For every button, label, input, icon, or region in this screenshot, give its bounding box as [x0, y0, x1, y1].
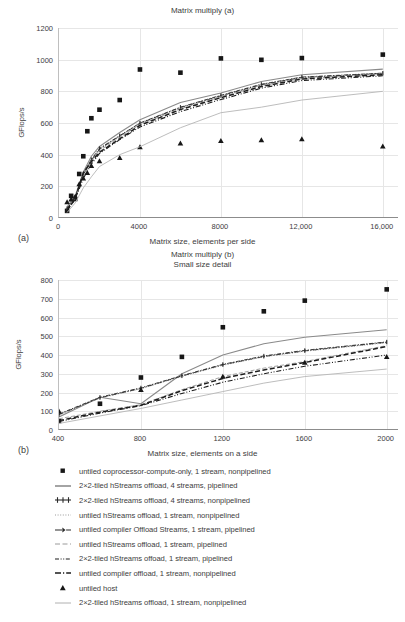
- data-point-square: [138, 67, 143, 72]
- solid-thin-line-icon: [52, 596, 74, 610]
- legend-item-label: 2×2-tiled hStreams offoad, 1 stream, pip…: [79, 554, 232, 563]
- data-point-triangle: [259, 137, 265, 142]
- y-axis-tick-label: 300: [22, 369, 53, 378]
- y-axis-tick-label: 1200: [22, 24, 53, 33]
- data-point-square: [178, 70, 183, 75]
- chart-series-layer: [59, 28, 398, 217]
- data-point-square: [85, 129, 90, 134]
- legend-item[interactable]: untiled compiler offload, 1 stream, nonp…: [52, 566, 402, 581]
- panel-a-tag: (a): [18, 233, 29, 243]
- legend-item-label: 2×2-tiled hStreams offload, 4 streams, p…: [79, 481, 238, 490]
- x-axis-tick-label: 400: [52, 434, 65, 443]
- legend-item[interactable]: untiled compiler Offload Streams, 1 stre…: [52, 522, 402, 537]
- legend-item-label: untiled hStreams offload, 1 stream, pipe…: [79, 540, 227, 549]
- legend-item[interactable]: 2×2-tiled hStreams offload, 1 stream, no…: [52, 595, 402, 610]
- x-axis-tick-label: 8000: [212, 222, 229, 231]
- x-axis-tick-label: 0: [56, 222, 60, 231]
- x-axis-tick-label: 2000: [377, 434, 394, 443]
- series-line: [67, 91, 383, 212]
- chart-a-plot-area: [58, 28, 398, 218]
- data-point-square: [81, 154, 86, 159]
- panel-b-tag: (b): [18, 445, 29, 455]
- legend-item[interactable]: 2×2-tiled hStreams offoad, 1 stream, pip…: [52, 552, 402, 567]
- legend-item[interactable]: untiled hStreams offload, 1 stream, nonp…: [52, 508, 402, 523]
- chart-matrix-multiply-a: Matrix multiply (a) GFlops/s 02004006008…: [0, 0, 405, 250]
- x-axis-tick-label: 4000: [131, 222, 148, 231]
- chart-matrix-multiply-b: Matrix multiply (b) Small size detail GF…: [0, 250, 405, 462]
- y-axis-tick-label: 800: [22, 87, 53, 96]
- data-point-square: [219, 56, 224, 61]
- y-axis-tick-label: 600: [22, 119, 53, 128]
- data-point-square: [97, 107, 102, 112]
- data-point-square: [259, 58, 264, 63]
- dash-cross-line-icon: [52, 493, 74, 507]
- data-point-triangle: [59, 408, 62, 413]
- square-marker-icon: [52, 464, 74, 478]
- legend-item-label: 2×2-tiled hStreams offload, 4 streams, n…: [79, 496, 250, 505]
- data-point-square: [139, 375, 144, 380]
- chart-series-layer: [59, 280, 398, 429]
- legend-item[interactable]: 2×2-tiled hStreams offload, 4 streams, n…: [52, 493, 402, 508]
- legend-item[interactable]: untiled hStreams offload, 1 stream, pipe…: [52, 537, 402, 552]
- data-point-triangle: [218, 138, 224, 143]
- y-axis-tick-label: 400: [22, 150, 53, 159]
- y-axis-tick-label: 400: [22, 351, 53, 360]
- dotted-line-icon: [52, 508, 74, 522]
- data-point-square: [384, 287, 389, 292]
- dash-dot-dot-line-icon: [52, 552, 74, 566]
- chart-b-x-axis-label: Matrix size, elements on a side: [0, 449, 405, 458]
- y-axis-tick-label: 700: [22, 294, 53, 303]
- chart-a-x-axis-label: Matrix size, elements per side: [0, 237, 405, 246]
- legend-item-label: untiled coprocessor-compute-only, 1 stre…: [79, 467, 271, 476]
- chart-legend: untiled coprocessor-compute-only, 1 stre…: [52, 464, 402, 610]
- y-axis-tick-label: 100: [22, 407, 53, 416]
- data-point-square: [221, 325, 226, 330]
- data-point-square: [89, 116, 94, 121]
- data-point-square: [262, 309, 267, 314]
- x-axis-tick-label: 12,000: [289, 222, 312, 231]
- solid-line-icon: [52, 479, 74, 493]
- data-point-triangle: [178, 140, 184, 145]
- legend-item[interactable]: untiled coprocessor-compute-only, 1 stre…: [52, 464, 402, 479]
- legend-item[interactable]: untiled host: [52, 581, 402, 596]
- data-point-square: [180, 355, 185, 360]
- y-axis-tick-label: 1000: [22, 55, 53, 64]
- dash-dot-line-icon: [52, 566, 74, 580]
- data-point-triangle: [97, 158, 103, 163]
- x-axis-tick-label: 1600: [295, 434, 312, 443]
- legend-item-label: untiled compiler offload, 1 stream, nonp…: [79, 569, 236, 578]
- legend-item-label: untiled compiler Offload Streams, 1 stre…: [79, 525, 255, 534]
- y-axis-tick-label: 0: [22, 214, 53, 223]
- data-point-square: [117, 98, 122, 103]
- triangle-marker-icon: [52, 581, 74, 595]
- data-point-square: [381, 52, 386, 57]
- dash-gray-line-icon: [52, 537, 74, 551]
- chart-b-plot-area: [58, 280, 398, 430]
- data-point-square: [98, 401, 103, 406]
- series-line: [67, 69, 383, 207]
- y-axis-tick-label: 200: [22, 388, 53, 397]
- data-point-square: [302, 298, 307, 303]
- x-axis-tick-label: 16,000: [370, 222, 393, 231]
- legend-item-label: untiled host: [79, 584, 117, 593]
- y-axis-tick-label: 200: [22, 182, 53, 191]
- y-axis-tick-label: 0: [22, 426, 53, 435]
- data-point-square: [300, 56, 305, 61]
- y-axis-tick-label: 600: [22, 313, 53, 322]
- chart-a-title: Matrix multiply (a): [0, 6, 405, 16]
- data-point-square: [77, 172, 82, 177]
- dash-dot-arrow-icon: [52, 523, 74, 537]
- data-point-triangle: [380, 143, 386, 148]
- legend-item-label: 2×2-tiled hStreams offload, 1 stream, no…: [79, 598, 246, 607]
- figure-root: Matrix multiply (a) GFlops/s 02004006008…: [0, 0, 405, 622]
- legend-item[interactable]: 2×2-tiled hStreams offload, 4 streams, p…: [52, 479, 402, 494]
- legend-item-label: untiled hStreams offload, 1 stream, nonp…: [79, 511, 239, 520]
- data-point-triangle: [64, 199, 70, 204]
- data-point-triangle: [299, 136, 305, 141]
- y-axis-tick-label: 500: [22, 332, 53, 341]
- y-axis-tick-label: 800: [22, 276, 53, 285]
- chart-b-title: Matrix multiply (b) Small size detail: [0, 250, 405, 270]
- x-axis-tick-label: 1200: [214, 434, 231, 443]
- x-axis-tick-label: 800: [134, 434, 147, 443]
